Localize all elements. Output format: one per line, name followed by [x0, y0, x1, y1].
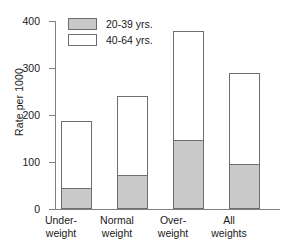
- x-tick-label-line-2: weight: [86, 227, 148, 240]
- bar-segment-20-39: [117, 175, 148, 209]
- bar-segment-20-39: [229, 164, 260, 209]
- bar-segment-40-64: [229, 73, 260, 165]
- x-tick-label-all-weights: All weights: [198, 214, 260, 239]
- x-tick-label-line-1: Normal: [86, 214, 148, 227]
- legend: 20-39 yrs. 40-64 yrs.: [68, 16, 153, 48]
- y-tick-label-400: 400: [10, 16, 40, 27]
- x-tick-label-normal-weight: Normal weight: [86, 214, 148, 239]
- legend-label-20-39: 20-39 yrs.: [106, 18, 153, 30]
- y-axis-tick-labels: 400 300 200 100 0: [10, 0, 40, 250]
- x-tick-label-line-1: All: [198, 214, 260, 227]
- x-axis-line: [55, 209, 280, 210]
- y-tick-label-200: 200: [10, 110, 40, 121]
- stacked-bar-chart: Rate per 1000 400 300 200 100 0: [0, 0, 288, 250]
- x-tick-label-overweight: Over- weight: [142, 214, 204, 239]
- bar-segment-40-64: [61, 121, 92, 189]
- bar-overweight[interactable]: [173, 31, 204, 209]
- legend-entry-20-39[interactable]: 20-39 yrs.: [68, 16, 153, 31]
- bar-underweight[interactable]: [61, 121, 92, 209]
- bar-segment-20-39: [61, 188, 92, 209]
- x-tick-label-underweight: Under- weight: [30, 214, 92, 239]
- bar-segment-40-64: [173, 31, 204, 141]
- y-tick-label-100: 100: [10, 157, 40, 168]
- bar-segment-20-39: [173, 140, 204, 209]
- x-tick-label-line-1: Under-: [30, 214, 92, 227]
- x-tick-label-line-1: Over-: [142, 214, 204, 227]
- legend-entry-40-64[interactable]: 40-64 yrs.: [68, 32, 153, 47]
- legend-swatch-40-64: [68, 34, 97, 46]
- plot-area: [55, 21, 280, 209]
- bar-all-weights[interactable]: [229, 73, 260, 209]
- bar-segment-40-64: [117, 96, 148, 176]
- x-tick-label-line-2: weight: [30, 227, 92, 240]
- legend-label-40-64: 40-64 yrs.: [106, 34, 153, 46]
- legend-swatch-20-39: [68, 18, 97, 30]
- bar-normal-weight[interactable]: [117, 96, 148, 209]
- x-tick-label-line-2: weight: [142, 227, 204, 240]
- y-tick-label-300: 300: [10, 63, 40, 74]
- x-tick-label-line-2: weights: [198, 227, 260, 240]
- y-tick-label-0: 0: [10, 204, 40, 215]
